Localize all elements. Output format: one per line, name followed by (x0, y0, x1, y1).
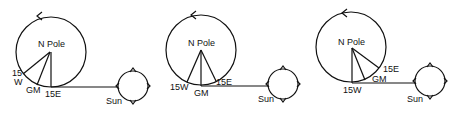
earth-circle (316, 12, 386, 82)
line-15e (201, 50, 216, 81)
pole-label: N Pole (188, 38, 215, 48)
label-15w: 15W (170, 82, 189, 92)
sun-label: Sun (407, 94, 423, 104)
label-15e: 15E (383, 64, 399, 74)
pole-label: N Pole (338, 37, 365, 47)
label-15e: 15E (216, 77, 232, 87)
label-gm: GM (372, 74, 387, 84)
label-gm: GM (194, 88, 209, 98)
pole-label: N Pole (38, 39, 65, 49)
sun-label: Sun (258, 94, 274, 104)
label-gm: GM (26, 85, 41, 95)
panel-3 (316, 9, 447, 99)
sun-circle (415, 66, 445, 96)
label-15e: 15E (45, 89, 61, 99)
label-15w: 15W (343, 85, 362, 95)
line-15w (187, 50, 201, 82)
earth-rotation-diagram: N Pole 15 W GM 15E Sun N Pole 15W GM 15E… (0, 0, 467, 114)
sun-label: Sun (106, 96, 122, 106)
sun-circle (118, 71, 148, 101)
label-15w-bottom: W (14, 77, 23, 87)
